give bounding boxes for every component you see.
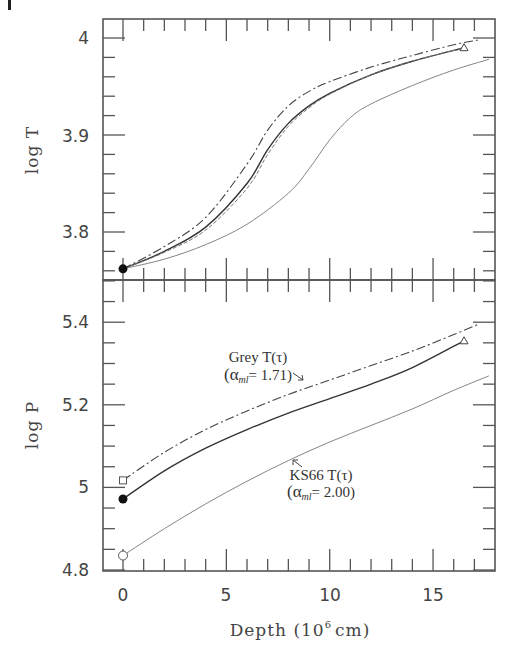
top-panel-frame [103,19,495,280]
bottom-curve-dash-dot [123,324,479,480]
arrow-grey [293,373,303,380]
xtick-label-10: 10 [319,585,341,605]
ytick-label-bottom-4.8: 4.8 [62,560,89,580]
ytick-label-top-3.9: 3.9 [62,126,89,146]
svg-text:(αml= 1.71): (αml= 1.71) [224,365,292,385]
open-circle-marker [119,551,128,560]
xlabel: Depth (106cm) [230,619,371,640]
top-curve-dashed [123,48,464,269]
ytick-label-bottom-5.4: 5.4 [62,312,89,332]
ytick-label-bottom-5: 5 [78,477,89,497]
figure: 4 3.9 3.8 5.4 5.2 5 4.8 0 5 10 15 log T … [0,0,519,652]
ytick-label-bottom-5.2: 5.2 [62,395,89,415]
arrow-ks66 [293,460,302,467]
open-triangle-marker [460,337,468,344]
ytick-label-top-4: 4 [78,28,89,48]
svg-text:Grey T(τ): Grey T(τ) [229,349,288,366]
xtick-label-0: 0 [118,585,129,605]
xtick-label-5: 5 [221,585,232,605]
svg-text:(αml= 2.00): (αml= 2.00) [287,482,355,502]
top-curve-dotted [123,59,489,269]
top-curve-solid [123,48,464,269]
xtick-label-15: 15 [422,585,444,605]
ylabel-top: log T [22,126,42,174]
open-square-marker [120,477,127,484]
open-triangle-marker [460,44,468,51]
corner-mark [8,0,11,10]
annotation-ks66: KS66 T(τ) (αml= 2.00) [287,460,355,502]
annotation-grey: Grey T(τ) (αml= 1.71) [224,349,303,385]
filled-circle-marker [119,494,128,503]
top-curve-dash-dot [123,40,479,269]
bottom-curve-dotted [123,376,489,556]
ytick-label-top-3.8: 3.8 [62,222,89,242]
bottom-panel-frame [103,280,495,571]
filled-circle-marker [119,264,128,273]
ylabel-bottom: log P [22,401,42,449]
